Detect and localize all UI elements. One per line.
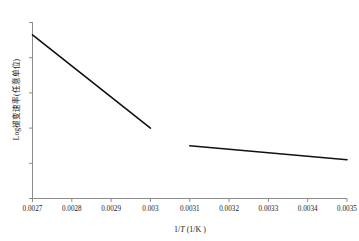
x-axis-tick-labels: 0.0027 0.0028 0.0029 0.003 0.0031 0.0032… [23, 205, 358, 213]
arrhenius-plot: 0.0027 0.0028 0.0029 0.003 0.0031 0.0032… [0, 0, 359, 241]
x-tick-label: 0.0029 [101, 205, 121, 213]
x-tick-label: 0.0035 [337, 205, 357, 213]
x-tick-label: 0.0032 [219, 205, 239, 213]
x-tick-label: 0.003 [142, 205, 159, 213]
x-tick-label: 0.0034 [298, 205, 318, 213]
chart-container: 0.0027 0.0028 0.0029 0.003 0.0031 0.0032… [0, 0, 359, 241]
x-tick-label: 0.0028 [62, 205, 82, 213]
x-axis-title: 1/T (1/K ) [174, 225, 206, 234]
x-tick-label: 0.0033 [259, 205, 279, 213]
x-tick-label: 0.0027 [23, 205, 43, 213]
x-tick-label: 0.0031 [180, 205, 200, 213]
